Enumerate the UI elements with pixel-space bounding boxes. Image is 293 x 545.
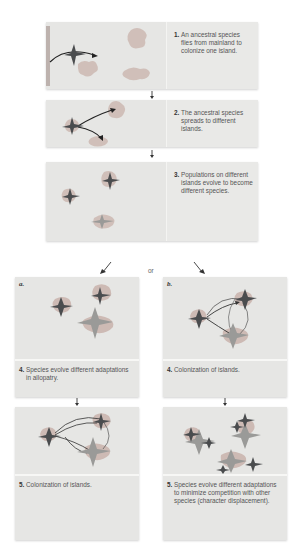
character-displacement-icon (163, 407, 287, 474)
down-arrow-icon (74, 398, 80, 406)
branch-b-step-4-panel: b. 4. Colonization of islands. (163, 277, 287, 397)
step-text: An ancestral species flies from mainland… (174, 31, 252, 55)
branch-a-step-5-illustration (15, 407, 139, 474)
down-arrow-icon (149, 150, 155, 158)
branch-a-step-4-panel: a. 4. Species evolve different adaptatio… (15, 277, 139, 397)
step-number: 5. (167, 481, 172, 489)
step-number: 4. (167, 366, 172, 374)
branch-b-step-4-illustration (163, 277, 287, 359)
step-3-panel: 3. Populations on different islands evol… (46, 162, 258, 241)
branch-a-step-4-caption: 4. Species evolve different adaptations … (19, 366, 129, 382)
step-2-caption-box: 2. The ancestral species spreads to diff… (166, 100, 258, 147)
branch-a-step-5-panel: 5. Colonization of islands. (15, 407, 139, 540)
panel-divider (15, 359, 139, 361)
step-number: 1. (174, 31, 179, 39)
down-arrow-icon (222, 398, 228, 406)
step-number: 2. (174, 109, 179, 117)
branch-b-step-5-illustration (163, 407, 287, 474)
step-text: Species evolve different adaptations in … (19, 366, 129, 382)
branch-a-step-4-illustration (15, 277, 139, 359)
allopatric-adaptation-icon (15, 277, 139, 359)
step-text: Populations on different islands evolve … (174, 171, 254, 195)
step-1-caption-box: 1. An ancestral species flies from mainl… (166, 22, 258, 89)
step-text: The ancestral species spreads to differe… (174, 109, 252, 133)
colonization-of-islands-icon (163, 277, 287, 359)
step-1-illustration (46, 22, 166, 89)
or-connector: or (148, 267, 154, 274)
panel-divider (15, 474, 139, 476)
species-spread-icon (46, 100, 166, 147)
step-3-caption: 3. Populations on different islands evol… (174, 171, 254, 195)
step-2-caption: 2. The ancestral species spreads to diff… (174, 109, 252, 133)
step-number: 3. (174, 171, 179, 179)
step-number: 4. (19, 366, 24, 374)
step-text: Colonization of islands. (19, 481, 129, 489)
step-1-caption: 1. An ancestral species flies from mainl… (174, 31, 252, 55)
step-text: Colonization of islands. (167, 366, 277, 374)
step-3-illustration (46, 162, 166, 241)
colonization-after-allopatry-icon (15, 407, 139, 474)
panel-divider (163, 474, 287, 476)
diverged-populations-icon (46, 162, 166, 241)
step-1-panel: 1. An ancestral species flies from mainl… (46, 22, 258, 89)
panel-divider (163, 359, 287, 361)
step-text: Species evolve different adaptations to … (167, 481, 281, 505)
branch-b-step-4-caption: 4. Colonization of islands. (167, 366, 277, 374)
branch-b-arrow-icon (192, 261, 206, 275)
step-2-panel: 2. The ancestral species spreads to diff… (46, 100, 258, 147)
branch-b-step-5-panel: 5. Species evolve different adaptations … (163, 407, 287, 540)
step-3-caption-box: 3. Populations on different islands evol… (166, 162, 258, 241)
branch-b-step-5-caption: 5. Species evolve different adaptations … (167, 481, 281, 505)
branch-a-arrow-icon (99, 261, 113, 275)
step-number: 5. (19, 481, 24, 489)
down-arrow-icon (149, 91, 155, 99)
branch-a-step-5-caption: 5. Colonization of islands. (19, 481, 129, 489)
mainland-colonization-icon (46, 22, 166, 89)
step-2-illustration (46, 100, 166, 147)
